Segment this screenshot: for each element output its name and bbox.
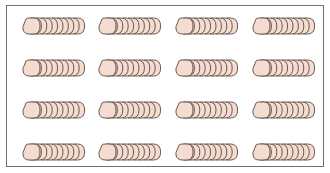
coin-stack-r2-c1 (21, 58, 87, 78)
coin-stack-grid (7, 6, 323, 166)
coin-stack-r1-c4 (251, 16, 317, 36)
coin-stack-icon (251, 100, 317, 120)
coin-stack-r2-c3 (174, 58, 240, 78)
coin-stack-r1-c3 (174, 16, 240, 36)
coin-stack-icon (97, 16, 163, 36)
coin-stack-icon (174, 100, 240, 120)
coin-stack-icon (97, 58, 163, 78)
coin-stack-r3-c1 (21, 100, 87, 120)
coin-stack-icon (174, 16, 240, 36)
coin-stack-r3-c3 (174, 100, 240, 120)
coin-stack-icon (251, 16, 317, 36)
coin-stack-icon (174, 142, 240, 162)
coin-stack-icon (97, 142, 163, 162)
coin-stack-icon (251, 58, 317, 78)
coin-stack-icon (174, 58, 240, 78)
coin-stack-icon (21, 142, 87, 162)
coin-stack-r3-c2 (97, 100, 163, 120)
coin-stack-r3-c4 (251, 100, 317, 120)
figure-frame (6, 5, 324, 167)
coin-stack-icon (251, 142, 317, 162)
coin-stack-icon (21, 100, 87, 120)
coin-stack-r2-c2 (97, 58, 163, 78)
coin-stack-r1-c2 (97, 16, 163, 36)
coin-stack-icon (21, 16, 87, 36)
coin-stack-r4-c3 (174, 142, 240, 162)
coin-stack-r4-c2 (97, 142, 163, 162)
coin-stack-r4-c1 (21, 142, 87, 162)
coin-stack-r4-c4 (251, 142, 317, 162)
coin-stack-icon (21, 58, 87, 78)
coin-stack-icon (97, 100, 163, 120)
coin-stack-r2-c4 (251, 58, 317, 78)
coin-stack-r1-c1 (21, 16, 87, 36)
